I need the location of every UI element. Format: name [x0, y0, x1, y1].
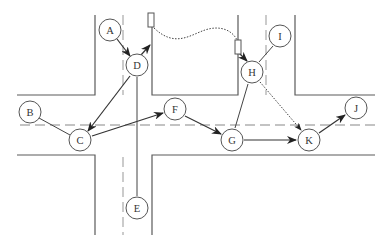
- node-g: G: [221, 129, 243, 151]
- node-d: D: [126, 54, 148, 76]
- node-c-label: C: [76, 135, 83, 146]
- graph-edges: [39, 28, 345, 196]
- road-edge-top-left: [17, 15, 95, 95]
- road-edge-top-middle: [152, 15, 238, 95]
- node-a: A: [99, 19, 121, 41]
- node-j-label: J: [354, 103, 358, 114]
- node-k-label: K: [305, 135, 313, 146]
- node-d-label: D: [133, 60, 141, 71]
- edge-h-g: [235, 84, 248, 128]
- marker-2: [235, 40, 241, 54]
- node-g-label: G: [228, 135, 236, 146]
- road-edge-top-right: [295, 15, 375, 95]
- road-centerlines: [20, 15, 376, 235]
- node-c: C: [69, 129, 91, 151]
- node-f: F: [164, 98, 186, 120]
- node-h: H: [241, 61, 263, 83]
- node-k: K: [298, 129, 320, 151]
- node-h-label: H: [248, 67, 256, 78]
- diagram-svg: A B C D E F G H I J K: [0, 0, 390, 246]
- edge-d-marker1: [141, 45, 150, 55]
- node-j: J: [345, 97, 367, 119]
- node-e: E: [126, 197, 148, 219]
- edge-k-j: [319, 115, 345, 133]
- node-f-label: F: [172, 104, 178, 115]
- road-edge-bottom-left: [17, 155, 95, 235]
- marker-1: [148, 13, 154, 27]
- road-edge-bottom-right: [152, 155, 375, 235]
- graph-nodes: A B C D E F G H I J K: [19, 19, 367, 219]
- edge-d-c: [88, 76, 130, 131]
- edge-marker1-marker2-curve: [154, 28, 237, 40]
- node-a-label: A: [106, 25, 114, 36]
- road-network-diagram: A B C D E F G H I J K: [0, 0, 390, 246]
- node-e-label: E: [134, 203, 140, 214]
- rect-markers: [148, 13, 241, 54]
- node-i: I: [269, 25, 291, 47]
- node-b: B: [19, 101, 41, 123]
- node-b-label: B: [26, 107, 33, 118]
- node-i-label: I: [278, 31, 282, 42]
- edge-b-c: [39, 118, 70, 135]
